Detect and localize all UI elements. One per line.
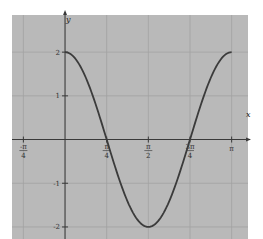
x-tick-numerator: π (146, 143, 151, 151)
x-tick-label: π (229, 145, 234, 153)
x-tick-denominator: 4 (21, 152, 26, 160)
x-tick-denominator: 4 (104, 152, 109, 160)
x-axis-arrow-icon (246, 138, 251, 142)
x-tick-denominator: 2 (146, 152, 150, 160)
y-tick-label: 1 (56, 92, 60, 100)
y-axis-label: y (65, 15, 71, 24)
y-tick-label: -1 (53, 180, 60, 188)
x-axis-label: x (246, 110, 251, 119)
y-tick-label: 2 (56, 49, 60, 57)
x-tick-denominator: 4 (188, 152, 193, 160)
function-plot: -π4π4π23π4π 21-1-2 x y (0, 0, 263, 239)
y-tick-label: -2 (53, 223, 60, 231)
x-tick-numerator: -π (20, 143, 27, 151)
